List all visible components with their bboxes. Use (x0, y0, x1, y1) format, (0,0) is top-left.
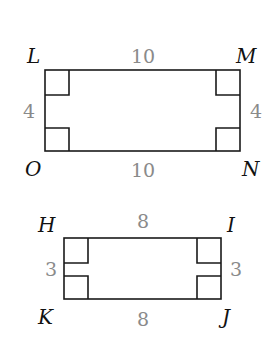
vertex-label-n: N (241, 157, 261, 181)
right-angle-mark-o (45, 128, 69, 151)
vertex-label-j: J (218, 305, 231, 329)
side-length-left: 4 (23, 100, 35, 122)
vertex-label-h: H (37, 213, 56, 237)
rectangle-lmno (45, 70, 240, 151)
right-angle-mark-i (197, 238, 221, 263)
right-angle-mark-h (64, 238, 88, 263)
right-angle-mark-k (64, 276, 88, 299)
vertex-label-l: L (26, 44, 40, 68)
side-length-bottom: 10 (131, 159, 155, 181)
side-length-right: 3 (230, 258, 242, 280)
vertex-label-i: I (226, 213, 236, 237)
right-angle-mark-j (197, 276, 221, 299)
side-length-bottom: 8 (137, 308, 149, 330)
side-length-right: 4 (250, 100, 262, 122)
rectangle-hijk (64, 238, 221, 299)
right-angle-mark-m (216, 70, 240, 95)
vertex-label-o: O (25, 157, 41, 181)
vertex-label-k: K (37, 305, 54, 329)
diagram-canvas: L M N O 10 10 4 4 H I J K 8 8 3 3 (0, 0, 278, 349)
side-length-top: 10 (131, 45, 155, 67)
right-angle-mark-n (216, 128, 240, 151)
side-length-left: 3 (45, 258, 57, 280)
right-angle-mark-l (45, 70, 69, 95)
vertex-label-m: M (235, 44, 257, 68)
rectangle-lmno-outline (45, 70, 240, 151)
side-length-top: 8 (137, 210, 149, 232)
